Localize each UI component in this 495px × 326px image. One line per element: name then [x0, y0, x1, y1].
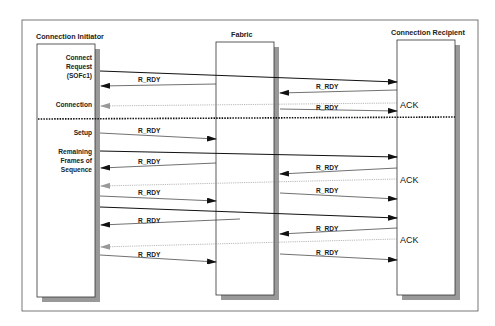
label-connect: Connect: [66, 54, 93, 61]
label-sofc1: (SOFc1): [67, 72, 92, 80]
fabric-box-shadow: [274, 47, 279, 300]
label-frames-of: Frames of: [60, 157, 92, 164]
initiator-box-shadow: [95, 49, 100, 302]
label-sequence: Sequence: [61, 166, 92, 174]
recipient-box-shadow: [455, 45, 460, 300]
label-connection: Connection: [56, 101, 92, 108]
participant-recipient-label: Connection Recipient: [391, 28, 465, 37]
r-rdy-label-2: R_RDY: [316, 83, 339, 90]
r-rdy-label-6: R_RDY: [316, 164, 339, 171]
sequence-diagram: Connection Initiator Fabric Connection R…: [0, 0, 495, 326]
initiator-box-shadow-bottom: [42, 297, 100, 302]
r-rdy-label-7: R_RDY: [138, 189, 161, 196]
r-rdy-label-5: R_RDY: [138, 158, 161, 165]
ack-label-2: ACK: [400, 175, 419, 185]
fabric-box: [216, 42, 274, 295]
label-setup: Setup: [74, 129, 92, 137]
fabric-box-shadow-bottom: [221, 295, 279, 300]
ack-label-1: ACK: [400, 100, 419, 110]
r-rdy-label-9: R_RDY: [138, 217, 161, 224]
label-remaining: Remaining: [58, 148, 92, 156]
recipient-box: [397, 40, 455, 295]
r-rdy-label-10: R_RDY: [316, 225, 339, 232]
r-rdy-label-12: R_RDY: [316, 249, 339, 256]
ack-label-3: ACK: [400, 235, 419, 245]
r-rdy-label-3: R_RDY: [316, 104, 339, 111]
r-rdy-label-11: R_RDY: [138, 251, 161, 258]
r-rdy-label-4: R_RDY: [138, 127, 161, 134]
participant-fabric-label: Fabric: [231, 30, 253, 39]
recipient-box-shadow-bottom: [402, 295, 460, 300]
label-request: Request: [66, 63, 93, 71]
participant-initiator-label: Connection Initiator: [36, 32, 104, 41]
r-rdy-label-8: R_RDY: [316, 187, 339, 194]
r-rdy-label-1: R_RDY: [138, 76, 161, 83]
